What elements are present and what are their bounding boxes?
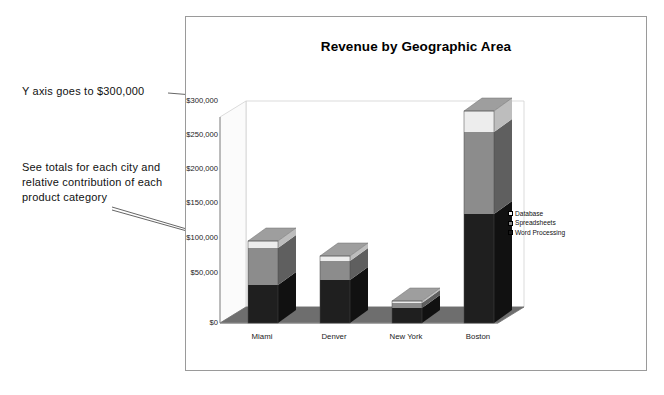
legend-swatch-word-processing: [508, 230, 513, 235]
y-tick-label: $200,000: [158, 164, 218, 173]
legend-swatch-database: [508, 211, 513, 216]
legend-label-spreadsheets: Spreadsheets: [515, 218, 556, 227]
y-tick-label: $0: [158, 318, 218, 327]
y-tick-label: $50,000: [158, 268, 218, 277]
legend-swatch-spreadsheets: [508, 221, 513, 226]
x-tick-label-denver: Denver: [299, 332, 369, 341]
chart-legend: Database Spreadsheets Word Processing: [508, 209, 565, 237]
legend-label-database: Database: [515, 209, 543, 218]
chart-container: Revenue by Geographic Area: [185, 16, 647, 371]
x-tick-label-new-york: New York: [371, 332, 441, 341]
y-tick-label: $150,000: [158, 198, 218, 207]
legend-label-word-processing: Word Processing: [515, 228, 565, 237]
x-tick-label-boston: Boston: [443, 332, 513, 341]
x-tick-label-miami: Miami: [227, 332, 297, 341]
legend-item-word-processing: Word Processing: [508, 228, 565, 237]
plot-area: [186, 17, 648, 372]
y-tick-label: $250,000: [158, 130, 218, 139]
chart-3d-canvas: [186, 17, 648, 372]
legend-item-spreadsheets: Spreadsheets: [508, 218, 565, 227]
y-tick-label: $100,000: [158, 233, 218, 242]
y-tick-label: $300,000: [158, 96, 218, 105]
legend-item-database: Database: [508, 209, 565, 218]
